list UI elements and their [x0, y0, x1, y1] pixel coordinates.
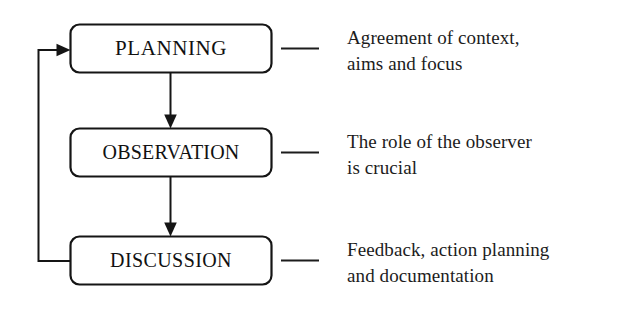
- connector-discussion-to-planning-feedback: [39, 44, 71, 261]
- cycle-diagram: PLANNING OBSERVATION DISCUSSION Agreemen…: [0, 0, 630, 319]
- connector-planning-to-observation: [164, 73, 177, 129]
- description-discussion-line-1: Feedback, action planning: [347, 237, 625, 263]
- description-planning-line-1: Agreement of context,: [347, 25, 625, 51]
- description-observation: The role of the observer is crucial: [347, 129, 625, 181]
- description-planning-line-2: aims and focus: [347, 51, 625, 77]
- description-planning: Agreement of context, aims and focus: [347, 25, 625, 77]
- node-label-discussion: DISCUSSION: [70, 236, 272, 285]
- node-label-planning: PLANNING: [70, 24, 272, 73]
- node-label-observation: OBSERVATION: [70, 128, 272, 177]
- description-discussion: Feedback, action planning and documentat…: [347, 237, 625, 289]
- connector-observation-to-discussion: [164, 177, 177, 237]
- description-discussion-line-2: and documentation: [347, 263, 625, 289]
- description-observation-line-1: The role of the observer: [347, 129, 625, 155]
- description-observation-line-2: is crucial: [347, 155, 625, 181]
